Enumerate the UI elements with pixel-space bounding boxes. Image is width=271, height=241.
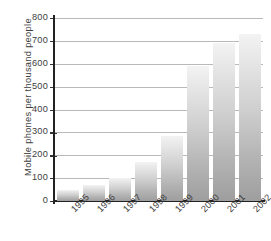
bar [161,136,183,201]
y-tick-label: 200 [18,149,48,159]
y-tick-label: 300 [18,126,48,136]
gridline [55,41,263,42]
bar-chart: Mobile phones per thousand people 010020… [0,0,271,241]
bar [239,34,261,201]
y-tick-label: 700 [18,35,48,45]
plot-area [55,18,263,201]
y-tick-label: 600 [18,58,48,68]
bar [213,43,235,201]
y-tick-label: 100 [18,172,48,182]
y-tick-label: 800 [18,12,48,22]
x-axis-tick-labels: 19951996199719981999200020012002 [55,203,267,241]
bar [187,66,209,201]
y-tick-label: 500 [18,81,48,91]
y-tick-label: 400 [18,104,48,114]
y-tick-label: 0 [18,195,48,205]
gridline [55,18,263,19]
